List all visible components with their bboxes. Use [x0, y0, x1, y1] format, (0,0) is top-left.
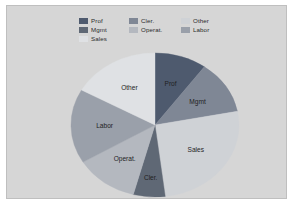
legend-item-mgmt[interactable]: Cler.	[129, 16, 181, 25]
pie-chart-area: ProfMgmtSalesCler.Operat.LaborOther	[69, 51, 241, 199]
legend-label-prof: Prof	[91, 16, 103, 25]
legend-label-cler: Mgmt	[91, 25, 107, 34]
pie-label-sales: Sales	[188, 146, 205, 153]
legend-item-labor[interactable]: Labor	[181, 25, 233, 34]
legend-item-sales[interactable]: Other	[181, 16, 233, 25]
chart-legend: Prof Cler. Other Mgmt Operat. Labor	[79, 16, 239, 43]
pie-label-cler: Cler.	[144, 174, 158, 181]
legend-item-cler[interactable]: Mgmt	[79, 25, 129, 34]
legend-label-labor: Labor	[193, 25, 209, 34]
legend-swatch-prof	[79, 18, 88, 24]
pie-label-prof: Prof	[165, 80, 177, 87]
legend-swatch-other	[79, 36, 88, 42]
pie-label-labor: Labor	[96, 122, 114, 129]
legend-swatch-sales	[181, 18, 190, 24]
pie-slice-sales[interactable]	[155, 111, 239, 196]
pie-chart-screenshot: Prof Cler. Other Mgmt Operat. Labor	[0, 0, 294, 205]
pie-label-operat: Operat.	[114, 155, 136, 163]
legend-swatch-mgmt	[129, 18, 138, 24]
legend-swatch-operat	[129, 27, 138, 33]
legend-swatch-labor	[181, 27, 190, 33]
legend-label-mgmt: Cler.	[141, 16, 154, 25]
pie-label-other: Other	[121, 84, 138, 91]
legend-item-operat[interactable]: Operat.	[129, 25, 181, 34]
legend-label-other: Sales	[91, 34, 107, 43]
legend-item-other[interactable]: Sales	[79, 34, 129, 43]
pie-label-mgmt: Mgmt	[189, 98, 206, 106]
legend-label-sales: Other	[193, 16, 209, 25]
legend-item-prof[interactable]: Prof	[79, 16, 129, 25]
pie-svg: ProfMgmtSalesCler.Operat.LaborOther	[69, 51, 241, 199]
legend-label-operat: Operat.	[141, 25, 162, 34]
chart-panel: Prof Cler. Other Mgmt Operat. Labor	[6, 5, 287, 199]
legend-swatch-cler	[79, 27, 88, 33]
